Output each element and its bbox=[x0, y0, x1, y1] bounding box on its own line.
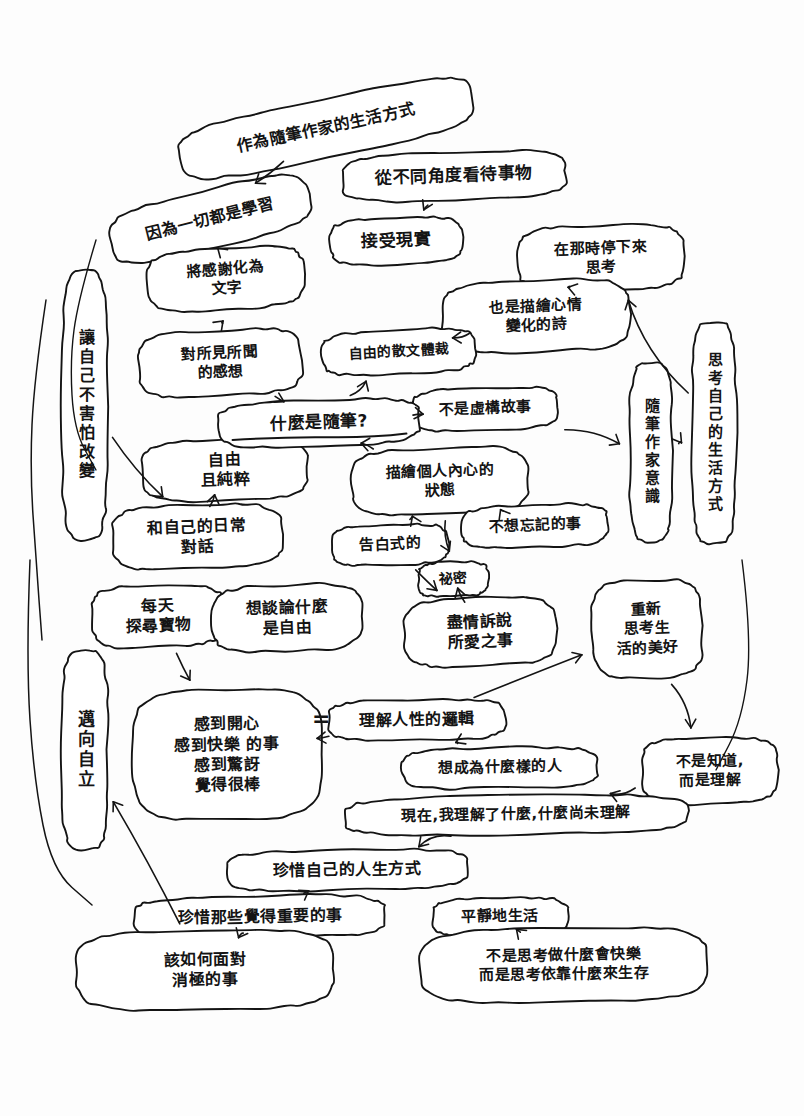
mindmap-node[interactable]: 每天 探尋寶物 bbox=[91, 583, 225, 650]
mindmap-node[interactable]: 接受現實 bbox=[329, 216, 463, 267]
mindmap-node[interactable]: 珍惜自己的人生方式 bbox=[226, 848, 469, 892]
mindmap-node[interactable]: 自由的散文體裁 bbox=[321, 326, 477, 378]
mindmap-node[interactable]: 該如何面對 消極的事 bbox=[75, 928, 334, 1012]
mindmap-node[interactable]: 從不同角度看待事物 bbox=[341, 148, 567, 204]
mindmap-node[interactable]: 將感謝化為 文字 bbox=[146, 243, 306, 316]
mindmap-node[interactable]: 理解人性的邏輯 bbox=[328, 698, 507, 741]
mindmap-node[interactable]: 和自己的日常 對話 bbox=[111, 502, 283, 572]
mindmap-node[interactable]: 不是虛構故事 bbox=[411, 385, 558, 432]
mindmap-node[interactable]: 現在,我理解了什麼,什麼尚未理解 bbox=[344, 793, 689, 837]
mindmap-node[interactable]: 邁向自立 bbox=[62, 650, 108, 850]
mindmap-node[interactable]: 對所見所聞 的感想 bbox=[136, 326, 303, 400]
mindmap-node[interactable]: 想談論什麼 是自由 bbox=[211, 582, 363, 653]
equals-sign: = bbox=[312, 706, 330, 731]
mindmap-node[interactable]: 感到開心 感到快樂 的事 感到驚訝 覺得很棒 bbox=[131, 688, 323, 821]
mindmap-node[interactable]: 思考自己的生活方式 bbox=[692, 322, 736, 544]
mindmap-node[interactable]: 重新 思考生 活的美好 bbox=[590, 578, 703, 680]
mindmap-node[interactable]: 盡情訴說 所愛之事 bbox=[403, 595, 557, 668]
mindmap-node[interactable]: 不是思考做什麼會快樂 而是思考依靠什麼來生存 bbox=[419, 925, 708, 1004]
mindmap-node[interactable]: 讓自己不害怕改變 bbox=[62, 270, 108, 540]
mindmap-node[interactable]: 什麼是隨筆? bbox=[217, 396, 420, 449]
mindmap-node[interactable]: 隨筆作家意識 bbox=[630, 362, 672, 542]
mindmap-node[interactable]: 告白式的 bbox=[331, 523, 448, 567]
mindmap-node[interactable]: 不想忘記的事 bbox=[461, 502, 608, 549]
mindmap-node[interactable]: 祕密 bbox=[417, 561, 488, 597]
mindmap-node[interactable]: 想成為什麼樣的人 bbox=[402, 746, 599, 789]
